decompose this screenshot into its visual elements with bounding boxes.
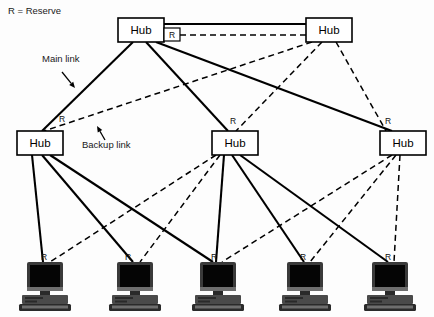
hub-link-reserve-badge: R	[164, 28, 180, 41]
r-marker-computer-2: R	[125, 252, 131, 262]
hub-mid-center-label: Hub	[224, 137, 245, 149]
r-marker-computer-4: R	[300, 252, 306, 262]
link-backup-midright-comp5	[394, 155, 400, 262]
reserve-badge-label: R	[169, 30, 175, 40]
hub-top-right-label: Hub	[318, 24, 339, 36]
hub-mid-center[interactable]: Hub	[212, 131, 258, 155]
hub-top-right[interactable]: Hub	[306, 18, 352, 42]
r-marker-hub-mid-left: R	[59, 114, 65, 124]
main-link-arrow-shaft	[62, 72, 71, 83]
main-link-annotation-label: Main link	[42, 53, 80, 64]
hub-mid-left-label: Hub	[29, 137, 50, 149]
hub-top-left-label: Hub	[130, 24, 151, 36]
diagram-canvas: HubHubHubHubHubR RRRRRRRR R = Reserve Ma…	[0, 0, 434, 317]
r-marker-computer-3: R	[211, 252, 217, 262]
link-main-midcenter-comp3	[216, 155, 224, 262]
hub-mid-left[interactable]: Hub	[17, 131, 63, 155]
computers-group	[19, 262, 416, 311]
link-backup-topright-midright	[336, 42, 386, 131]
hub-mid-right-label: Hub	[392, 137, 413, 149]
r-marker-hub-mid-right: R	[385, 116, 391, 126]
link-main-midleft-comp2	[42, 155, 133, 262]
link-main-midcenter-comp4	[232, 155, 304, 262]
computer-workstation	[192, 262, 244, 311]
network-topology-diagram: HubHubHubHubHubR RRRRRRRR R = Reserve Ma…	[0, 0, 434, 317]
computer-workstation	[279, 262, 331, 311]
hubs-group: HubHubHubHubHubR	[17, 18, 426, 155]
link-backup-midright-comp4	[310, 155, 396, 262]
computer-workstation	[364, 262, 416, 311]
backup-link-annotation-label: Backup link	[82, 139, 131, 150]
backup-link-arrow	[97, 126, 105, 140]
link-backup-topright-midcenter	[236, 42, 322, 131]
link-main-midleft-comp3	[50, 155, 213, 262]
main-link-arrow	[62, 72, 75, 88]
hub-mid-right[interactable]: Hub	[380, 131, 426, 155]
reserve-legend-text: R = Reserve	[8, 5, 61, 16]
r-marker-computer-1: R	[41, 252, 47, 262]
hub-top-left[interactable]: Hub	[118, 18, 164, 42]
computer-workstation	[19, 262, 71, 311]
r-marker-hub-mid-center: R	[230, 116, 236, 126]
link-main-midleft-comp1	[32, 155, 43, 262]
computer-workstation	[109, 262, 161, 311]
link-backup-midcenter-comp2	[140, 155, 220, 262]
link-main-topleft-midcenter	[146, 42, 228, 131]
r-marker-computer-5: R	[385, 252, 391, 262]
